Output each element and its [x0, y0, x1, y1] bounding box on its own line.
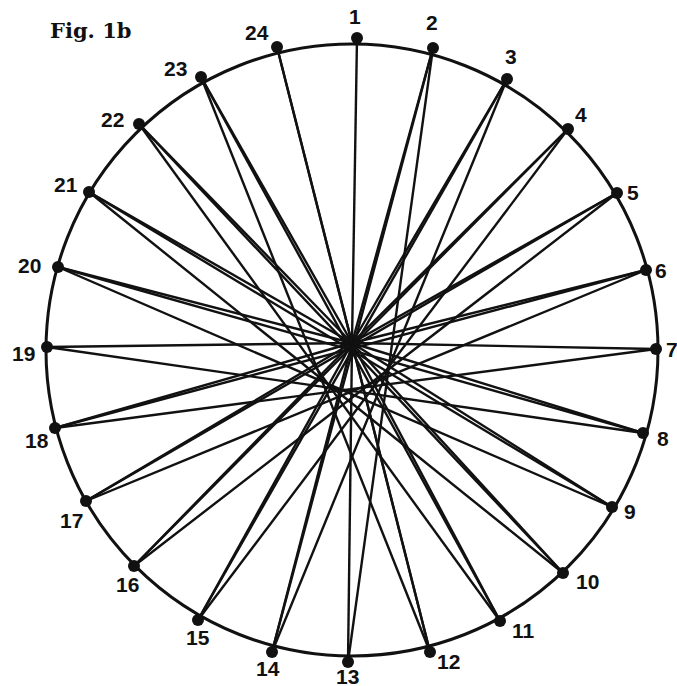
point-21	[83, 186, 95, 198]
point-18	[49, 422, 61, 434]
point-label-7: 7	[666, 338, 677, 361]
chord-9-20	[58, 267, 612, 507]
point-label-20: 20	[18, 254, 41, 277]
point-label-12: 12	[437, 650, 460, 673]
string-art-circle-diagram: 123456789101112131415161718192021222324	[0, 0, 677, 686]
point-label-2: 2	[426, 11, 438, 34]
point-9	[606, 501, 618, 513]
point-label-15: 15	[186, 626, 210, 649]
chord-8-19	[47, 347, 643, 433]
point-1	[351, 32, 363, 44]
chord-6-17	[86, 270, 646, 501]
point-label-5: 5	[627, 181, 639, 204]
point-12	[424, 646, 436, 658]
point-4	[562, 123, 574, 135]
point-16	[128, 560, 140, 572]
chord-5-16	[134, 193, 617, 566]
point-20	[52, 261, 64, 273]
point-8	[637, 427, 649, 439]
point-24	[271, 41, 283, 53]
point-label-21: 21	[54, 173, 78, 196]
point-label-1: 1	[349, 5, 361, 28]
point-label-11: 11	[512, 619, 535, 642]
point-10	[557, 567, 569, 579]
point-label-16: 16	[116, 573, 139, 596]
point-label-18: 18	[25, 429, 49, 452]
point-2	[427, 42, 439, 54]
point-label-8: 8	[657, 427, 669, 450]
point-22	[133, 118, 145, 130]
point-label-13: 13	[336, 665, 359, 686]
point-label-17: 17	[60, 509, 83, 532]
hub-line-1	[352, 38, 357, 343]
point-23	[195, 71, 207, 83]
point-3	[501, 73, 513, 85]
point-label-14: 14	[256, 657, 280, 680]
point-6	[640, 264, 652, 276]
point-label-4: 4	[575, 103, 587, 126]
point-label-3: 3	[505, 45, 517, 68]
point-19	[41, 341, 53, 353]
point-label-19: 19	[12, 342, 35, 365]
point-17	[80, 495, 92, 507]
point-label-9: 9	[624, 500, 636, 523]
point-15	[192, 614, 204, 626]
point-7	[650, 343, 662, 355]
point-5	[611, 187, 623, 199]
point-label-6: 6	[655, 259, 667, 282]
chord-24-12	[277, 47, 430, 652]
point-label-23: 23	[164, 57, 187, 80]
point-11	[494, 615, 506, 627]
point-label-10: 10	[576, 570, 599, 593]
point-label-24: 24	[245, 21, 269, 44]
point-label-22: 22	[101, 108, 124, 131]
